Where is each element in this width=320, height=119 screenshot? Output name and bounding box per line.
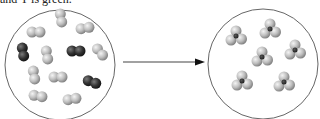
atom [83, 22, 94, 33]
reaction-arrow [123, 59, 205, 66]
atom [36, 91, 47, 102]
atom [282, 80, 287, 85]
atom [260, 55, 265, 60]
atom [240, 79, 245, 84]
atom [90, 78, 101, 89]
atom [234, 34, 239, 39]
atom [56, 16, 67, 27]
reaction-diagram [0, 0, 320, 119]
atom [268, 27, 273, 32]
atom [57, 72, 68, 83]
atom [70, 93, 81, 104]
atom [42, 53, 53, 64]
atom [35, 27, 46, 38]
atom [75, 46, 86, 57]
atom [29, 73, 40, 84]
atom [293, 48, 298, 53]
product-container [208, 9, 318, 119]
atom [97, 50, 108, 61]
atom [18, 50, 29, 61]
